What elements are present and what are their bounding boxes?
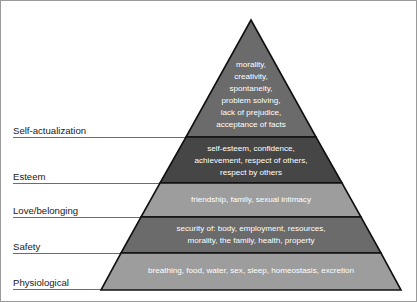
tier-text-self-actualization-line-6: acceptance of facts <box>216 120 286 129</box>
tier-label-safety: Safety <box>13 241 40 252</box>
pyramid-tier-safety: security of: body, employment, resources… <box>121 217 381 253</box>
tier-shape-safety <box>121 217 381 253</box>
pyramid-diagram: morality, creativity, spontaneity, probl… <box>1 1 417 302</box>
tier-label-self-actualization: Self-actualization <box>13 125 86 136</box>
pyramid-tier-esteem: self-esteem, confidence, achievement, re… <box>160 137 342 183</box>
tier-text-esteem-line-1: self-esteem, confidence, <box>207 144 295 153</box>
tier-text-esteem-line-2: achievement, respect of others, <box>195 156 308 165</box>
tier-text-self-actualization-line-4: problem solving, <box>222 96 281 105</box>
tier-text-safety-line-2: morality, the family, health, property <box>187 236 315 245</box>
tier-text-self-actualization-line-2: creativity, <box>234 72 268 81</box>
pyramid-tier-love-belonging: friendship, family, sexual intimacy <box>141 183 361 217</box>
pyramid-tier-self-actualization: morality, creativity, spontaneity, probl… <box>186 20 316 137</box>
tier-label-physiological: Physiological <box>13 277 69 288</box>
tier-label-esteem: Esteem <box>13 171 46 182</box>
tier-text-self-actualization-line-5: lack of prejudice, <box>221 108 282 117</box>
pyramid-tier-physiological: breathing, food, water, sex, sleep, home… <box>101 253 401 290</box>
maslow-hierarchy-figure: morality, creativity, spontaneity, probl… <box>0 0 417 302</box>
tier-text-self-actualization-line-1: morality, <box>236 60 266 69</box>
tier-labels: Self-actualization Esteem Love/belonging… <box>13 125 86 288</box>
tier-text-esteem-line-3: respect by others <box>220 168 282 177</box>
tier-text-self-actualization-line-3: spontaneity, <box>229 84 272 93</box>
tier-text-love-belonging-line-1: friendship, family, sexual intimacy <box>191 195 312 204</box>
tier-label-love-belonging: Love/belonging <box>13 205 78 216</box>
tier-text-physiological-line-1: breathing, food, water, sex, sleep, home… <box>148 266 354 275</box>
tier-text-safety-line-1: security of: body, employment, resources… <box>176 224 325 233</box>
